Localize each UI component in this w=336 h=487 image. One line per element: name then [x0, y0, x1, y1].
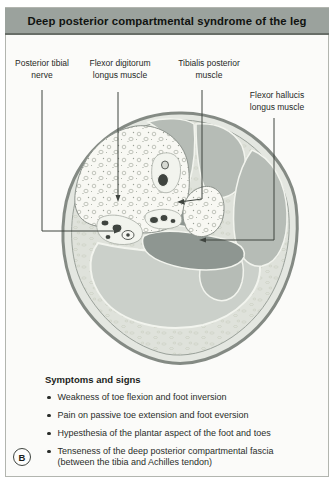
bullet-icon [47, 414, 51, 418]
symptom-item: Hypesthesia of the plantar aspect of the… [45, 428, 307, 440]
symptom-item: Pain on passive toe extension and foot e… [45, 410, 307, 422]
label-posterior-tibial-nerve: Posterior tibial nerve [8, 58, 76, 81]
label-flexor-digitorum-longus: Flexor digitorum longus muscle [82, 58, 158, 81]
symptom-line: Tenseness of the deep posterior compartm… [58, 446, 274, 458]
figure-label-badge: B [13, 448, 31, 466]
anterior-vascular-compartment [152, 153, 181, 193]
label-flexor-hallucis-longus: Flexor hallucis longus muscle [242, 90, 312, 113]
bullet-icon [47, 432, 51, 436]
anterior-tibial-vessel [158, 174, 169, 187]
symptom-item: Weakness of toe flexion and foot inversi… [45, 392, 307, 404]
posterior-tibial-vessel [105, 235, 111, 240]
symptom-text: Pain on passive toe extension and foot e… [58, 410, 249, 422]
peroneal-vessel [170, 219, 176, 224]
symptom-line: Pain on passive toe extension and foot e… [58, 410, 249, 422]
anterior-tibial-vessel [162, 161, 169, 169]
figure-page: Deep posterior compartmental syndrome of… [0, 0, 336, 487]
symptoms-heading: Symptoms and signs [45, 374, 307, 385]
peroneal-vessel [160, 215, 168, 222]
symptom-line: Weakness of toe flexion and foot inversi… [58, 392, 227, 404]
peroneal-vessel [150, 217, 159, 224]
bullet-icon [47, 396, 51, 400]
symptom-line: (between the tibia and Achilles tendon) [58, 457, 274, 469]
posterior-tibial-vessel [101, 220, 109, 226]
label-tibialis-posterior: Tibialis posterior muscle [169, 58, 249, 81]
symptom-text: Weakness of toe flexion and foot inversi… [58, 392, 227, 404]
symptom-item: Tenseness of the deep posterior compartm… [45, 446, 307, 469]
symptoms-section: Symptoms and signs Weakness of toe flexi… [45, 374, 307, 469]
symptom-text: Hypesthesia of the plantar aspect of the… [58, 428, 271, 440]
figure-title-bar: Deep posterior compartmental syndrome of… [5, 8, 329, 35]
figure-title: Deep posterior compartmental syndrome of… [27, 15, 306, 27]
symptom-line: Hypesthesia of the plantar aspect of the… [58, 428, 271, 440]
bullet-icon [47, 450, 51, 454]
posterior-tibial-nerve-core [126, 233, 130, 237]
symptom-text: Tenseness of the deep posterior compartm… [58, 446, 274, 469]
